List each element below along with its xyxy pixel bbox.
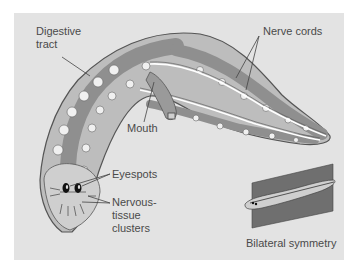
label-line: clusters [112, 222, 157, 235]
label-digestive-tract: Digestive tract [36, 25, 81, 51]
bilateral-symmetry-inset [245, 164, 335, 228]
label-line: Digestive [36, 25, 81, 38]
label-line: tract [36, 38, 81, 51]
label-nervous-tissue-clusters: Nervous- tissue clusters [112, 196, 157, 235]
label-eyespots: Eyespots [112, 168, 157, 181]
label-line: tissue [112, 209, 157, 222]
mouth-opening [168, 113, 175, 119]
label-bilateral-symmetry: Bilateral symmetry [246, 237, 336, 250]
label-mouth: Mouth [127, 122, 158, 135]
label-line: Nervous- [112, 196, 157, 209]
label-nerve-cords: Nerve cords [263, 25, 322, 38]
